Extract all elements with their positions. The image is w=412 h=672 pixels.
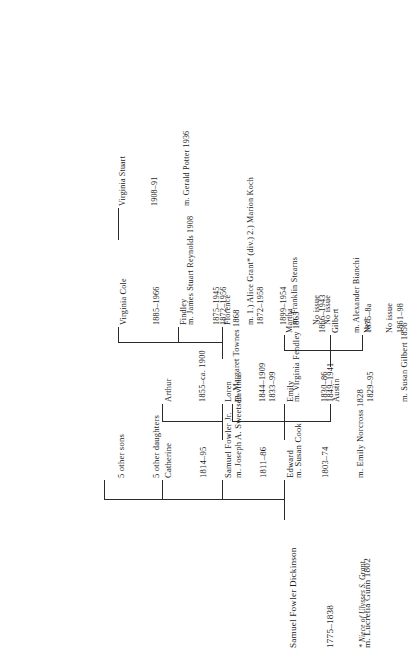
person-marriage: m. Gerald Potter 1936 bbox=[182, 131, 193, 206]
person-virginia-stuart: Virginia Stuart 1908–91 m. Gerald Potter… bbox=[96, 131, 215, 206]
connector-root-stem bbox=[284, 500, 285, 520]
person-marriage: m. Susan Cook bbox=[293, 412, 305, 478]
other-sons-label: 5 other sons bbox=[116, 415, 128, 478]
connector-gen1-others bbox=[104, 480, 105, 500]
person-dates: 1885–1966 bbox=[151, 216, 162, 325]
connector-gen1-edward bbox=[284, 480, 285, 500]
person-virginia-cole: Virginia Cole 1885–1966 m. James Stuart … bbox=[96, 216, 251, 325]
person-dates: 1829–95 bbox=[365, 322, 376, 402]
connector-gen1-samuel-jr bbox=[222, 480, 223, 500]
person-samuel-fowler-dickinson: Samuel Fowler Dickinson 1775–1838 m. Luc… bbox=[262, 547, 399, 648]
person-name: Virginia Cole bbox=[118, 216, 129, 325]
person-marriage: m. Joseph A. Sweetser bbox=[233, 396, 245, 478]
group-other-children: 5 other sons 5 other daughters bbox=[93, 415, 186, 478]
person-dates: 1814–95 bbox=[198, 396, 210, 478]
other-daughters-label: 5 other daughters bbox=[151, 415, 163, 478]
connector-child-virginia-cole bbox=[118, 327, 119, 343]
spouse-dates: 1872–1956 bbox=[218, 216, 229, 325]
person-marriage: m. Emily Norcross 1828 bbox=[355, 389, 367, 478]
person-dates: 1775–1838 bbox=[324, 547, 336, 648]
connector-gen1-catherine bbox=[162, 480, 163, 500]
footnote-grant: * Niece of Ulysses S. Grant bbox=[358, 561, 367, 648]
connector-gen1-spine bbox=[104, 499, 285, 500]
person-issue: No issue bbox=[384, 257, 395, 333]
person-marriage: m. James Stuart Reynolds 1908 bbox=[185, 216, 196, 325]
person-issue: No issue bbox=[311, 177, 322, 325]
person-dates: 1908–91 bbox=[150, 131, 161, 206]
person-marriage: m. Susan Gilbert 1856 bbox=[399, 322, 410, 402]
person-name: Samuel Fowler Dickinson bbox=[287, 547, 299, 648]
spouse-dates: 1899–1954 bbox=[278, 177, 289, 325]
person-name: Virginia Stuart bbox=[118, 131, 129, 206]
